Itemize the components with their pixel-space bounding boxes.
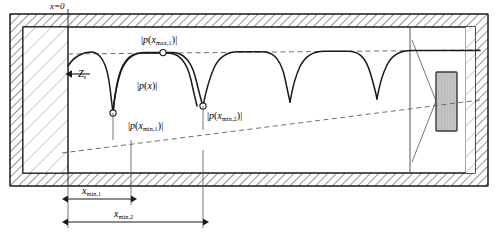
dimension-arrows — [68, 199, 203, 222]
figure-root: x=0 |p(xmax,1)| |p(x)| |p(xmin,1)| |p(xm… — [0, 0, 498, 244]
label-dim-xmin1: xmin,1 — [82, 186, 101, 197]
impedance-tube-diagram — [0, 0, 498, 244]
lower-envelope — [62, 100, 480, 153]
label-p-min-2: |p(xmin,2)| — [207, 111, 242, 122]
pressure-envelopes — [62, 50, 480, 153]
label-p-max-1: |p(xmax,1)| — [141, 35, 177, 46]
origin-label: x=0 — [50, 2, 65, 11]
standing-wave-curve — [68, 51, 480, 114]
absorbing-sample-block — [436, 72, 457, 131]
label-dim-xmin2: xmin,2 — [114, 209, 133, 220]
label-surface-impedance: Zs — [78, 69, 86, 80]
source-piston-block — [23, 27, 68, 173]
point-p-max-1 — [160, 50, 166, 56]
label-p-min-1: |p(xmin,1)| — [128, 121, 163, 132]
label-p-of-x: |p(x)| — [137, 81, 157, 92]
duct-wall-frame — [10, 14, 488, 186]
